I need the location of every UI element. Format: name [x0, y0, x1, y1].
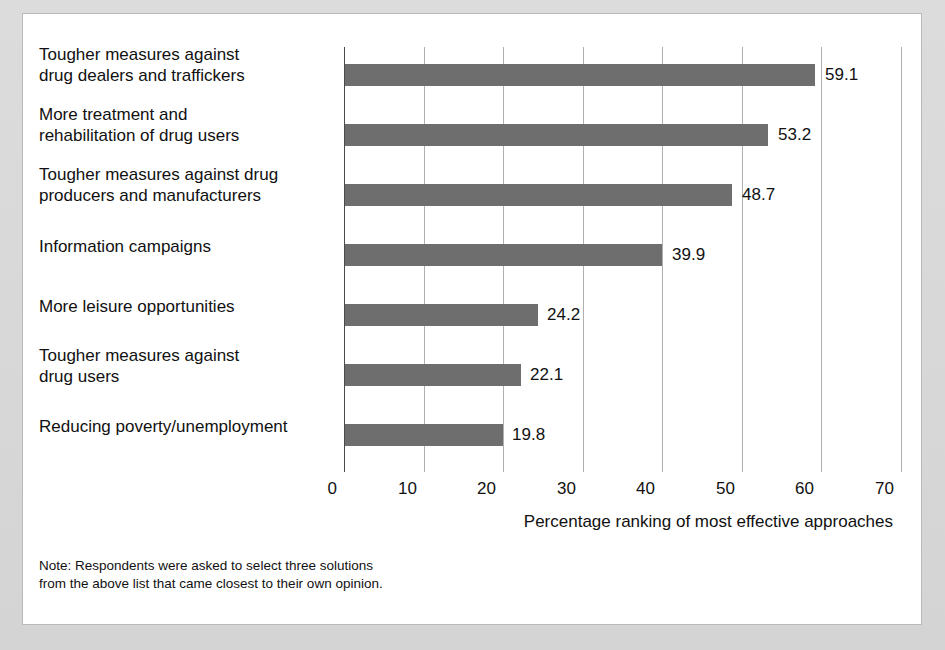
- xtick-label: 0: [297, 479, 337, 499]
- category-label-line: drug dealers and traffickers: [39, 65, 339, 86]
- category-label: Information campaigns: [39, 236, 339, 257]
- bar: [345, 124, 768, 146]
- bar: [345, 304, 538, 326]
- chart-note: Note: Respondents were asked to select t…: [39, 557, 383, 593]
- x-axis-title: Percentage ranking of most effective app…: [203, 512, 893, 532]
- category-label: More treatment and rehabilitation of dru…: [39, 104, 339, 146]
- gridline-40: [662, 47, 663, 472]
- bar: [345, 184, 732, 206]
- chart-note-line: from the above list that came closest to…: [39, 575, 383, 593]
- xtick-label: 30: [536, 479, 576, 499]
- gridline-60: [821, 47, 822, 472]
- page-background: Tougher measures against drug dealers an…: [0, 0, 945, 650]
- category-label-line: More treatment and: [39, 104, 339, 125]
- chart-panel: Tougher measures against drug dealers an…: [22, 13, 922, 625]
- category-label-line: More leisure opportunities: [39, 296, 339, 317]
- category-label: Tougher measures against drug users: [39, 345, 339, 387]
- bar-value-label: 24.2: [547, 304, 580, 326]
- bar: [345, 64, 815, 86]
- category-label-line: rehabilitation of drug users: [39, 125, 339, 146]
- xtick-label: 50: [695, 479, 735, 499]
- category-label-line: producers and manufacturers: [39, 185, 339, 206]
- category-label: Tougher measures against drug producers …: [39, 164, 339, 206]
- category-label: Reducing poverty/unemployment: [39, 416, 339, 437]
- gridline-50: [742, 47, 743, 472]
- xtick-label: 20: [456, 479, 496, 499]
- category-label: Tougher measures against drug dealers an…: [39, 44, 339, 86]
- category-label-line: Tougher measures against: [39, 44, 339, 65]
- category-label-line: Reducing poverty/unemployment: [39, 416, 339, 437]
- bar-value-label: 19.8: [512, 424, 545, 446]
- bar: [345, 364, 521, 386]
- category-label-line: Tougher measures against drug: [39, 164, 339, 185]
- category-label-line: Information campaigns: [39, 236, 339, 257]
- xtick-label: 10: [377, 479, 417, 499]
- chart-note-line: Note: Respondents were asked to select t…: [39, 557, 383, 575]
- xtick-label: 60: [774, 479, 814, 499]
- bar-value-label: 22.1: [530, 364, 563, 386]
- bar-value-label: 48.7: [742, 184, 775, 206]
- plot-area: 59.1 53.2 48.7 39.9 24.2 22.1 19.8 0 10 …: [344, 47, 901, 472]
- gridline-70: [901, 47, 902, 472]
- category-label-line: drug users: [39, 366, 339, 387]
- xtick-label: 70: [854, 479, 894, 499]
- bar-value-label: 59.1: [825, 64, 858, 86]
- category-label: More leisure opportunities: [39, 296, 339, 317]
- bar-value-label: 53.2: [778, 124, 811, 146]
- bar: [345, 424, 503, 446]
- xtick-label: 40: [615, 479, 655, 499]
- bar-value-label: 39.9: [672, 244, 705, 266]
- category-label-line: Tougher measures against: [39, 345, 339, 366]
- bar-chart: Tougher measures against drug dealers an…: [23, 14, 921, 624]
- bar: [345, 244, 662, 266]
